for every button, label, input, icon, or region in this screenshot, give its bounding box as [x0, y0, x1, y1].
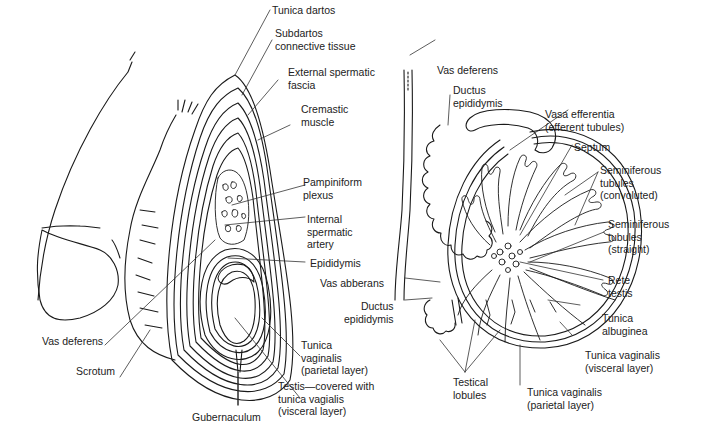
rete-testis-network [492, 243, 523, 273]
label-vasa-efferentia: Vasa efferentia (efferent tubules) [545, 108, 624, 133]
label-tunica-vaginalis-visceral: Tunica vaginalis (visceral layer) [585, 349, 660, 374]
label-subdartos-connective-tissue: Subdartos connective tissue [275, 27, 356, 52]
label-vas-deferens-right: Vas deferens [437, 64, 498, 77]
pampiniform-plexus-mesh [215, 170, 249, 244]
label-tunica-vaginalis-parietal-left: Tunica vaginalis (parietal layer) [301, 339, 368, 377]
label-internal-spermatic-artery: Internal spermatic artery [307, 213, 353, 251]
label-vas-deferens-left: Vas deferens [42, 335, 103, 348]
label-gubernaculum: Gubernaculum [192, 411, 261, 424]
label-rete-testis: Rete testis [608, 274, 633, 299]
label-tunica-albuginea: Tunica albuginea [602, 312, 648, 337]
ductus-epididymis-coils [422, 125, 492, 259]
scrotum-outline [125, 115, 176, 360]
label-ductus-epididymis-top: Ductus epididymis [453, 84, 503, 109]
label-seminiferous-straight: Seminiferous tubules (straight) [608, 218, 669, 256]
label-tunica-vaginalis-parietal-right: Tunica vaginalis (parietal layer) [527, 386, 602, 411]
testis-left [217, 271, 255, 343]
label-pampiniform-plexus: Pampiniform plexus [303, 176, 362, 201]
label-epididymis: Epididymis [310, 257, 361, 270]
vasa-efferentia-loop [466, 110, 555, 153]
label-seminiferous-convoluted: Seminiferous tubules (convoluted) [600, 164, 661, 202]
penis-outline [37, 230, 118, 320]
label-testis-covered: Testis—covered with tunica vagialis (vis… [278, 380, 374, 418]
label-testical-lobules: Testical lobules [453, 376, 488, 401]
label-external-spermatic-fascia: External spermatic fascia [288, 66, 375, 91]
label-septum: Septum [574, 141, 610, 154]
label-vas-abberans: Vas abberans [320, 277, 384, 290]
epididymis-left [218, 264, 254, 284]
testicular-lobules [458, 268, 615, 342]
label-cremastic-muscle: Cremastic muscle [301, 103, 348, 128]
label-scrotum: Scrotum [76, 365, 115, 378]
thigh-outline [38, 62, 132, 300]
vas-deferens-tube [395, 70, 404, 300]
label-tunica-dartos: Tunica dartos [272, 4, 335, 17]
label-ductus-epididymis-bottom: Ductus epididymis [344, 300, 394, 325]
